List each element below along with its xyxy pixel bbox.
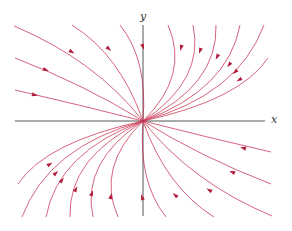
trajectory [120, 25, 144, 121]
trajectory [143, 25, 175, 121]
arrow-icon [214, 53, 220, 60]
arrow-icon [235, 77, 242, 84]
arrow-icon [68, 49, 75, 55]
trajectory [143, 121, 271, 184]
trajectory [46, 121, 143, 217]
trajectory [143, 25, 240, 121]
arrow-icon [171, 192, 178, 199]
trajectory [70, 121, 143, 217]
arrow-icon [178, 45, 183, 52]
arrow-icon [139, 193, 145, 200]
trajectory [142, 121, 166, 217]
trajectory [143, 121, 271, 152]
trajectory [143, 58, 268, 121]
trajectory [72, 25, 143, 121]
trajectory [111, 121, 143, 217]
arrow-icon [228, 169, 235, 175]
arrow-icon [105, 46, 112, 53]
arrow-icon [197, 47, 203, 54]
trajectory [15, 58, 143, 121]
trajectory [143, 121, 272, 216]
arrow-icon [52, 170, 59, 177]
y-axis-label: y [140, 10, 146, 23]
trajectory [143, 25, 216, 121]
arrow-icon [205, 187, 212, 193]
phase-portrait [0, 0, 292, 231]
trajectory [22, 121, 143, 217]
trajectory [143, 121, 214, 217]
trajectory [18, 121, 143, 184]
trajectory [143, 25, 264, 121]
arrow-icon [46, 161, 53, 168]
arrow-icon [231, 69, 238, 76]
arrow-icon [226, 61, 233, 68]
trajectory [14, 26, 143, 121]
x-axis-label: x [271, 113, 277, 126]
arrow-icon [108, 193, 113, 200]
